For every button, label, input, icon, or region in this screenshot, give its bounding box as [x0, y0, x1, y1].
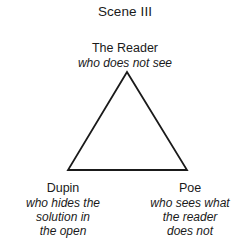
vertex-desc-dupin-line-3: the open — [0, 224, 126, 238]
vertex-desc-poe-line-2: the reader — [130, 210, 250, 224]
vertex-name-poe: Poe — [130, 181, 250, 196]
vertex-name-dupin: Dupin — [0, 181, 126, 196]
vertex-desc-dupin-line-1: who hides the — [0, 196, 126, 210]
triangle-outline — [68, 72, 187, 170]
vertex-label-bottom-right: Poe who sees what the reader does not — [130, 181, 250, 238]
scene-diagram: Scene III The Reader who does not see Du… — [0, 0, 250, 252]
vertex-label-bottom-left: Dupin who hides the solution in the open — [0, 181, 126, 238]
vertex-desc-dupin-line-2: solution in — [0, 210, 126, 224]
vertex-desc-poe-line-3: does not — [130, 224, 250, 238]
vertex-desc-poe-line-1: who sees what — [130, 196, 250, 210]
